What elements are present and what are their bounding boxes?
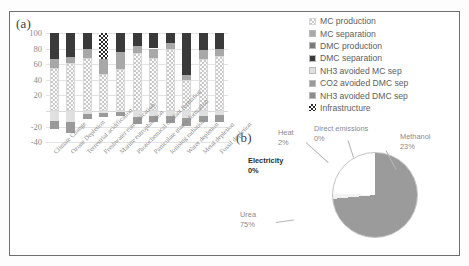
bar-segment [199, 33, 208, 50]
pie-slice-name: Heat [278, 128, 294, 137]
bar-segment [50, 68, 59, 111]
pie-slice-value: 75% [240, 220, 256, 230]
legend-swatch-icon [309, 67, 316, 74]
bar-segment [99, 74, 108, 111]
legend-item[interactable]: CO2 avoided DMC sep [309, 77, 459, 89]
legend-item-label: NH3 avoided MC sep [320, 66, 402, 76]
y-tick-label: 100 [14, 28, 42, 38]
pie-slice-label: Electricity0% [248, 156, 283, 176]
legend-swatch-icon [309, 55, 316, 62]
legend-item-label: Infrastructure [320, 103, 371, 113]
pie-slice-value: 0% [314, 134, 368, 144]
legend-item-label: MC production [320, 16, 376, 26]
bar-segment [50, 121, 59, 129]
legend-item[interactable]: Infrastructure [309, 102, 459, 114]
y-tick-label: -20 [14, 122, 42, 132]
bar-segment [66, 33, 75, 57]
chart-legend: MC productionMC separationDMC production… [309, 15, 459, 114]
legend-item-label: DMC separation [320, 53, 382, 63]
pie-slice-label: Methanol23% [400, 132, 430, 152]
legend-swatch-icon [309, 18, 316, 25]
bar-segment [215, 49, 224, 56]
bar-segment [83, 33, 92, 49]
bar-segment [149, 33, 158, 49]
bar-segment [50, 33, 59, 59]
bar-segment [99, 59, 108, 75]
bar-segment [99, 33, 108, 59]
bar-segment [83, 49, 92, 58]
pie-slice-label: Heat2% [278, 128, 294, 148]
bar-segment [116, 33, 125, 52]
y-tick-label: 40 [14, 75, 42, 85]
figure-container: (a) (b) 10080604020-20-40 Climate Change… [0, 0, 469, 266]
legend-swatch-icon [309, 104, 316, 111]
pie-slice-name: Electricity [248, 156, 283, 165]
bar-segment [149, 49, 158, 58]
bar-segment [83, 58, 92, 111]
bar-segment [50, 111, 59, 121]
legend-item-label: DMC production [320, 41, 382, 51]
bar-segment [215, 56, 224, 111]
pie-slice-value: 23% [400, 142, 430, 152]
legend-item[interactable]: MC production [309, 15, 459, 27]
pie-slice-value: 0% [248, 166, 283, 176]
legend-item[interactable]: DMC separation [309, 52, 459, 64]
pie-chart-panel: Urea75%Methanol23%Heat2%Direct emissions… [236, 126, 460, 254]
bar-segment [133, 46, 142, 53]
pie-slice-name: Methanol [400, 132, 430, 141]
pie-leader-line [306, 142, 329, 163]
bar-stack[interactable] [50, 29, 59, 146]
pie-leader-line [276, 219, 294, 222]
legend-item-label: CO2 avoided DMC sep [320, 78, 408, 88]
bar-segment [166, 33, 175, 43]
y-tick-label: 20 [14, 90, 42, 100]
legend-item-label: MC separation [320, 29, 376, 39]
bar-segment [66, 111, 75, 122]
bar-segment [116, 52, 125, 69]
legend-item[interactable]: MC separation [309, 27, 459, 39]
legend-item[interactable]: DMC production [309, 40, 459, 52]
y-tick-label: 60 [14, 59, 42, 69]
stacked-bar-chart: 10080604020-20-40 Climate ChangeOzone De… [14, 26, 232, 151]
bar-segment [83, 114, 92, 119]
legend-swatch-icon [309, 42, 316, 49]
legend-swatch-icon [309, 92, 316, 99]
bar-segment [166, 43, 175, 49]
bar-segment [215, 115, 224, 122]
legend-swatch-icon [309, 80, 316, 87]
bar-segment [116, 69, 125, 111]
pie-slice-label: Urea75% [240, 210, 256, 230]
pie-slice-label: Direct emissions0% [314, 124, 368, 144]
bar-segment [133, 33, 142, 46]
bar-segment [199, 50, 208, 59]
bar-segment [182, 75, 191, 80]
bar-segment [99, 113, 108, 117]
bar-segment [182, 33, 191, 75]
legend-item[interactable]: NH3 avoided DMC sep [309, 89, 459, 101]
pie-slice-name: Direct emissions [314, 124, 368, 133]
bar-segment [166, 49, 175, 111]
bar-segment [50, 59, 59, 68]
pie-chart [332, 152, 418, 238]
bar-segment [133, 53, 142, 111]
y-tick-label: -40 [14, 137, 42, 147]
y-tick-label: 80 [14, 44, 42, 54]
bar-segment [66, 63, 75, 111]
pie-slice-name: Urea [240, 210, 256, 219]
pie-slice-value: 2% [278, 138, 294, 148]
legend-swatch-icon [309, 30, 316, 37]
bar-segment [66, 57, 75, 63]
legend-item-label: NH3 avoided DMC sep [320, 91, 408, 101]
legend-item[interactable]: NH3 avoided MC sep [309, 65, 459, 77]
bar-segment [215, 33, 224, 49]
